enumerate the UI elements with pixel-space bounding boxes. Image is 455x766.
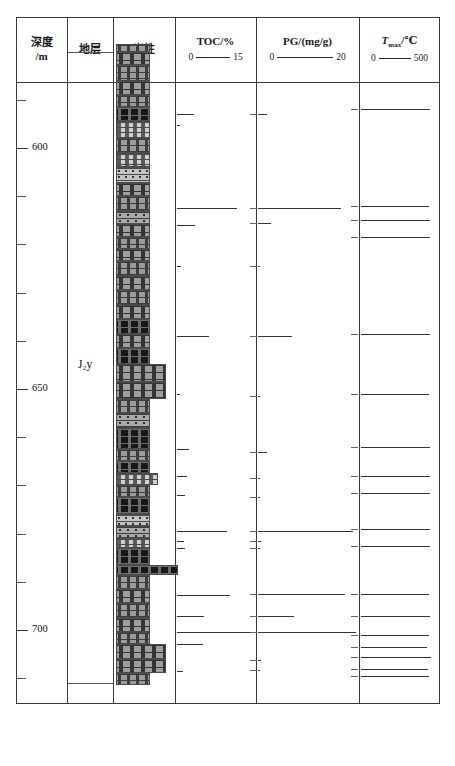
lithology-bed (116, 237, 150, 249)
track-edge-tick (250, 208, 256, 209)
track-edge-tick (250, 223, 256, 224)
track-edge-tick (250, 114, 256, 115)
depth-tick-minor (17, 678, 26, 679)
track-edge-tick (250, 632, 256, 633)
log-value-bar (361, 394, 429, 395)
lithology-bed (116, 538, 150, 548)
lithology-bed (116, 319, 150, 333)
depth-tick-minor (17, 244, 26, 245)
track-edge-tick (250, 531, 256, 532)
lithology-bed (116, 589, 150, 603)
log-value-bar (361, 334, 430, 335)
track-edge-tick (250, 594, 256, 595)
track-edge-tick (351, 669, 358, 670)
track-edge-tick (250, 336, 256, 337)
lithology-bed (116, 485, 150, 497)
lithology-bed (116, 276, 150, 290)
lithology-bed (116, 473, 158, 485)
log-value-bar (361, 669, 428, 670)
track-edge-tick (351, 635, 358, 636)
lithology-bed (116, 107, 150, 121)
lithology-bed (116, 261, 150, 275)
header-toc-title: TOC/% (197, 35, 235, 49)
track-edge-tick (250, 670, 256, 671)
depth-tick-major (17, 389, 28, 390)
log-value-bar (258, 266, 260, 267)
lithology-bed (116, 575, 150, 589)
log-value-bar (258, 114, 267, 115)
log-value-bar (361, 676, 429, 677)
track-edge-tick (351, 676, 358, 677)
lithology-bed (116, 196, 150, 210)
lithology-bed (116, 449, 150, 461)
lithology-bed (116, 52, 150, 65)
log-value-bar (258, 616, 294, 617)
log-value-bar (361, 594, 429, 595)
header-pg-max: 20 (336, 52, 346, 64)
log-value-bar (258, 396, 260, 397)
log-value-bar (361, 546, 430, 547)
log-value-bar (258, 670, 260, 671)
track-edge-tick (351, 476, 358, 477)
track-edge-tick (351, 529, 358, 530)
header-tmax-min: 0 (371, 53, 376, 65)
log-value-bar (258, 531, 353, 532)
depth-tick-major (17, 148, 28, 149)
log-value-bar (177, 114, 194, 115)
track-edge-tick (351, 109, 358, 110)
header-tmax: Tmax/℃ 0 500 (359, 17, 440, 82)
lithology-bed (116, 461, 150, 473)
log-value-bar (177, 531, 227, 532)
header-pg-min: 0 (269, 52, 274, 64)
header-strat: 地层 (67, 17, 113, 82)
well-log-figure: 深度 /m 地层 岩性 TOC/% 0 15 PG/(mg/g) 0 20 Tm… (0, 0, 455, 766)
lithology-bed (116, 644, 166, 658)
lithology-bed (116, 413, 150, 427)
header-tmax-unit: /℃ (401, 34, 417, 46)
log-value-bar (177, 541, 184, 542)
track-edge-tick (351, 447, 358, 448)
depth-tick-minor (17, 534, 26, 535)
track-edge-tick (250, 497, 256, 498)
depth-label: 650 (32, 382, 48, 393)
log-value-bar (361, 493, 430, 494)
lithology-bed (116, 632, 150, 644)
log-value-bar (177, 394, 180, 395)
log-value-bar (177, 266, 181, 267)
header-pg: PG/(mg/g) 0 20 (256, 17, 359, 82)
lithology-bed (116, 548, 150, 565)
strat-boundary-bottom (68, 683, 113, 684)
track-edge-tick (250, 616, 256, 617)
lithology-bed (116, 81, 150, 95)
lithology-bed (116, 526, 150, 538)
lithology-bed (116, 399, 150, 413)
strat-unit-label: J₂y (78, 358, 92, 370)
log-value-bar (177, 449, 189, 450)
header-toc-min: 0 (188, 52, 193, 64)
header-depth: 深度 /m (16, 17, 67, 82)
log-value-bar (258, 660, 261, 661)
log-value-bar (361, 206, 429, 207)
log-value-bar (258, 336, 292, 337)
log-value-bar (258, 541, 261, 542)
track-edge-tick (250, 548, 256, 549)
track-edge-tick (250, 660, 256, 661)
depth-tick-major (17, 630, 28, 631)
lithology-bed (116, 211, 150, 224)
lithology-bed (116, 565, 178, 575)
strat-boundary-top (68, 52, 113, 53)
log-value-bar (177, 225, 195, 226)
log-value-bar (361, 237, 430, 238)
divider-strat-lith (113, 17, 114, 704)
header-tmax-subscript: max (388, 41, 401, 49)
log-value-bar (258, 208, 341, 209)
lithology-bed (116, 428, 150, 450)
lithology-bed (116, 44, 150, 51)
log-value-bar (177, 644, 203, 645)
track-edge-tick (250, 452, 256, 453)
log-value-bar (361, 109, 430, 110)
log-value-bar (258, 452, 267, 453)
track-edge-tick (351, 334, 358, 335)
header-pg-scale: 0 20 (269, 52, 345, 64)
log-value-bar (177, 208, 237, 209)
